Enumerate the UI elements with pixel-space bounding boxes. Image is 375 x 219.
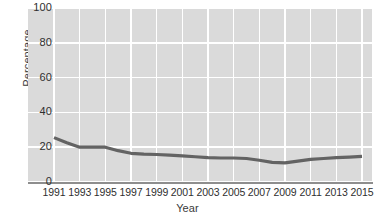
x-tick-label: 2011 — [298, 186, 324, 198]
x-tick-label: 2015 — [349, 186, 375, 198]
y-tick-label: 40 — [30, 106, 52, 117]
y-tick-label: 60 — [30, 72, 52, 83]
x-tick-label: 2001 — [169, 186, 195, 198]
x-axis-baseline — [28, 182, 373, 184]
plot-area — [28, 8, 372, 182]
x-tick-label: 2003 — [195, 186, 221, 198]
x-tick-label: 2009 — [272, 186, 298, 198]
y-tick-label: 20 — [30, 141, 52, 152]
x-tick-label: 1997 — [118, 186, 144, 198]
y-tick-label: 80 — [30, 37, 52, 48]
data-series-line — [28, 8, 372, 182]
x-tick-label: 2005 — [221, 186, 247, 198]
x-tick-label: 1995 — [92, 186, 118, 198]
y-tick-label: 100 — [30, 2, 52, 13]
x-axis-title: Year — [0, 202, 375, 214]
line-chart: Percentage 020406080100 1991199319951997… — [0, 0, 375, 219]
x-tick-label: 1993 — [67, 186, 93, 198]
x-tick-label: 2013 — [323, 186, 349, 198]
x-tick-label: 2007 — [246, 186, 272, 198]
x-tick-label: 1991 — [41, 186, 67, 198]
x-tick-label: 1999 — [144, 186, 170, 198]
